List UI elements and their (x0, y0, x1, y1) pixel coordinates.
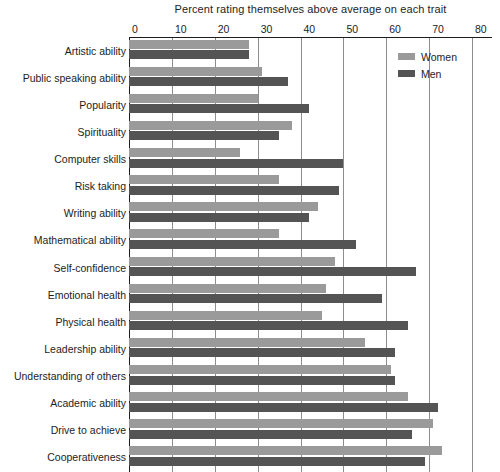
legend-item: Women (398, 49, 457, 64)
bar-men (129, 457, 425, 466)
bar-women (129, 229, 279, 238)
category-label: Popularity (3, 99, 126, 111)
bar-men (129, 104, 309, 113)
bar-women (129, 338, 365, 347)
category-label: Spirituality (3, 126, 126, 138)
category-label: Computer skills (3, 153, 126, 165)
legend-label: Women (421, 51, 457, 63)
x-tick-label-50: 50 (343, 23, 358, 35)
bar-men (129, 376, 395, 385)
x-tick-label-20: 20 (215, 23, 230, 35)
bar-women (129, 121, 292, 130)
x-tick-label-30: 30 (258, 23, 273, 35)
y-axis-category-labels: Artistic abilityPublic speaking abilityP… (0, 38, 126, 472)
bar-women (129, 202, 318, 211)
bar-women (129, 365, 391, 374)
chart-legend: WomenMen (398, 49, 457, 83)
bar-men (129, 348, 395, 357)
x-tick-label-10: 10 (172, 23, 187, 35)
bar-men (129, 159, 343, 168)
category-label: Risk taking (3, 180, 126, 192)
chart-title: Percent rating themselves above average … (129, 3, 492, 15)
bar-women (129, 419, 433, 428)
legend-swatch-men (398, 70, 415, 77)
x-tick-label-60: 60 (386, 23, 401, 35)
bar-men (129, 240, 356, 249)
bar-men (129, 186, 339, 195)
legend-item: Men (398, 66, 457, 81)
bar-men (129, 403, 438, 412)
x-tick-label-80: 80 (472, 23, 487, 35)
bar-men (129, 321, 408, 330)
category-label: Physical health (3, 316, 126, 328)
x-tick-label-0: 0 (129, 23, 138, 35)
legend-swatch-women (398, 53, 415, 60)
category-label: Mathematical ability (3, 234, 126, 246)
category-label: Artistic ability (3, 45, 126, 57)
bar-women (129, 284, 326, 293)
bar-men (129, 50, 249, 59)
category-label: Academic ability (3, 397, 126, 409)
bar-women (129, 311, 322, 320)
category-label: Understanding of others (3, 370, 126, 382)
category-label: Writing ability (3, 207, 126, 219)
category-label: Self-confidence (3, 262, 126, 274)
bar-men (129, 77, 288, 86)
plot-area (129, 38, 472, 472)
category-label: Cooperativeness (3, 451, 126, 463)
bar-women (129, 257, 335, 266)
category-label: Public speaking ability (3, 72, 126, 84)
bar-men (129, 294, 382, 303)
x-tick-label-70: 70 (429, 23, 444, 35)
category-label: Leadership ability (3, 343, 126, 355)
bar-women (129, 392, 408, 401)
bar-men (129, 267, 416, 276)
bar-men (129, 430, 412, 439)
bar-chart: Percent rating themselves above average … (0, 0, 500, 472)
bar-women (129, 175, 279, 184)
category-label: Emotional health (3, 289, 126, 301)
category-label: Drive to achieve (3, 424, 126, 436)
bar-women (129, 67, 262, 76)
bar-women (129, 148, 240, 157)
bar-men (129, 213, 309, 222)
bar-women (129, 446, 442, 455)
x-tick-label-40: 40 (301, 23, 316, 35)
gridline-80 (472, 38, 473, 472)
bar-men (129, 131, 279, 140)
legend-label: Men (421, 68, 441, 80)
bar-women (129, 40, 249, 49)
bar-women (129, 94, 258, 103)
